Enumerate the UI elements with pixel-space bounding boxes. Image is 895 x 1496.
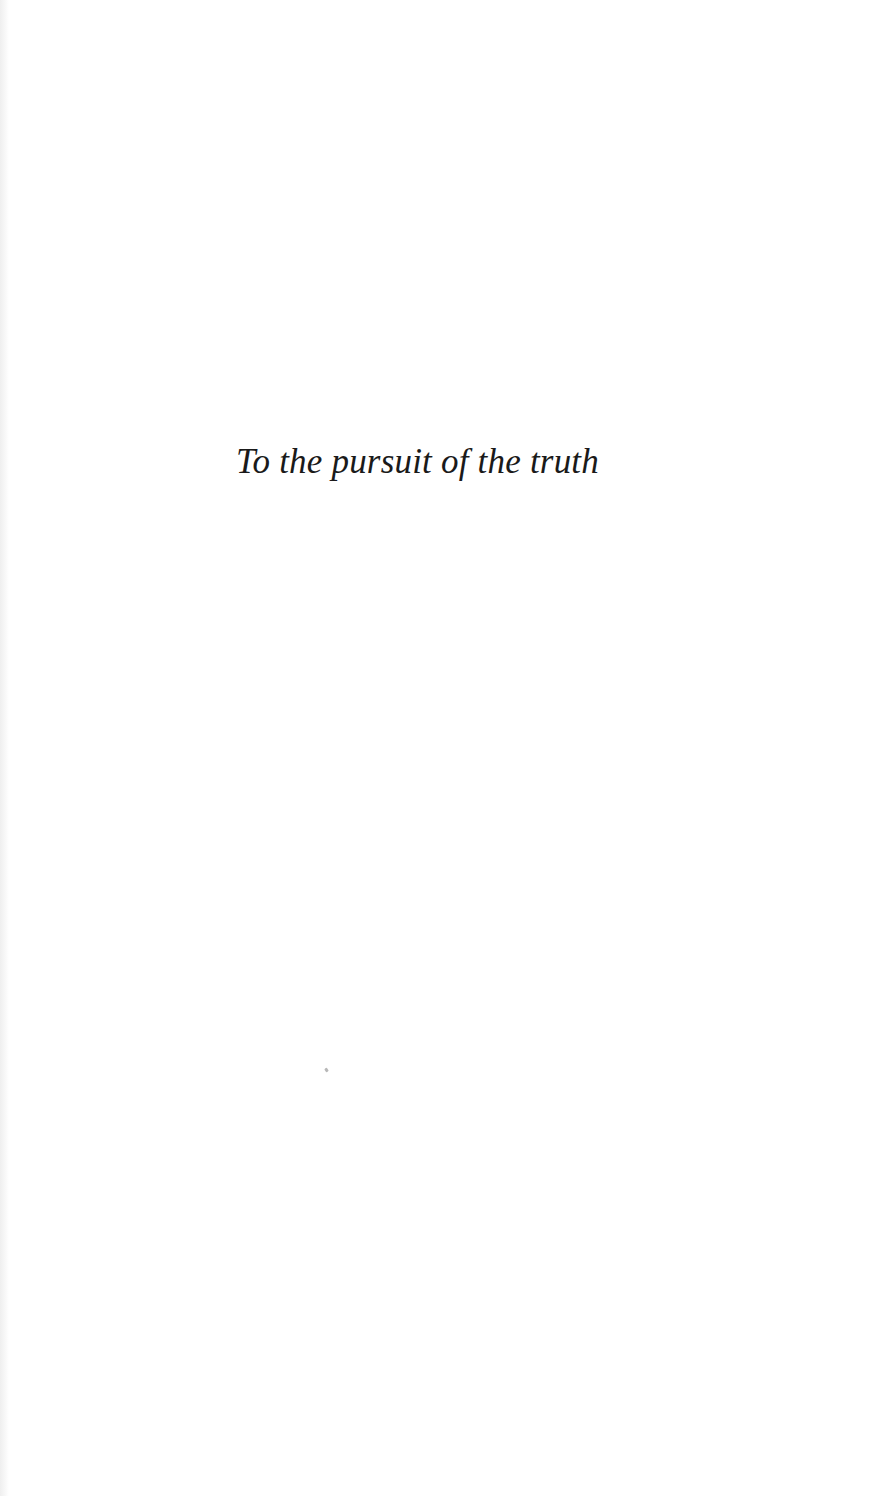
dedication-text: To the pursuit of the truth: [0, 440, 835, 484]
scan-edge-shadow: [0, 0, 9, 1496]
book-page: To the pursuit of the truth: [0, 0, 895, 1496]
scan-speck: [324, 1068, 329, 1073]
